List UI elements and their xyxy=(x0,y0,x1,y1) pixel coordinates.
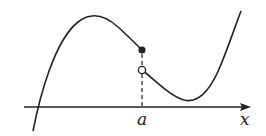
x-axis-label: x xyxy=(240,109,250,129)
right-branch-curve xyxy=(142,11,241,101)
point-a-label: a xyxy=(137,109,147,129)
closed-point xyxy=(138,46,145,53)
left-branch-curve xyxy=(33,16,142,131)
function-graph: a x xyxy=(0,0,266,136)
open-point xyxy=(138,66,145,73)
